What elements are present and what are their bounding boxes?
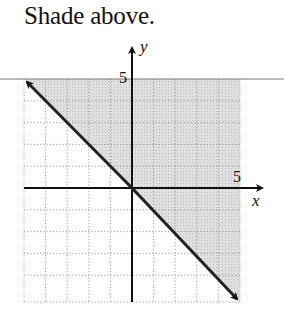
- x-axis-label: x: [251, 191, 260, 210]
- y-tick-label: 5: [119, 69, 127, 86]
- x-tick-label: 5: [233, 168, 241, 185]
- y-axis-label: y: [138, 37, 148, 56]
- inequality-graph: y x 5 5: [0, 0, 284, 318]
